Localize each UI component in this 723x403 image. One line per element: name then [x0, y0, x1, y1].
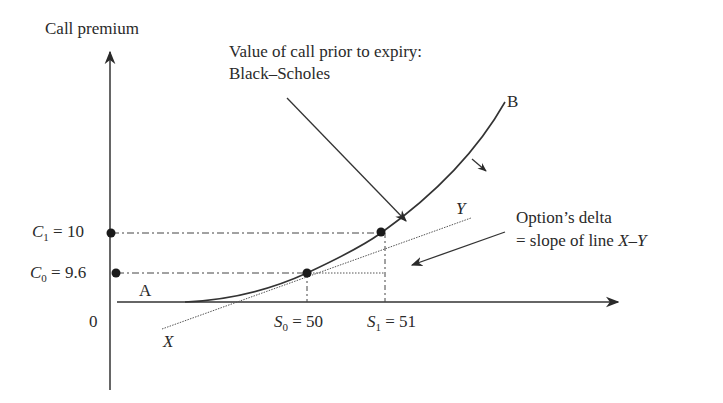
- c0-label: C0 = 9.6: [30, 263, 86, 283]
- c1-axis-dot: [107, 229, 116, 238]
- curve-shift-arrow: [472, 159, 486, 171]
- tangent-end-label-y: Y: [456, 199, 465, 219]
- annotation-delta-line1: Option’s delta: [516, 208, 612, 228]
- s1-label: S1 = 51: [367, 312, 416, 332]
- s0-label: S0 = 50: [274, 312, 323, 332]
- annotation-delta-line2: = slope of line X–Y: [516, 231, 646, 251]
- origin-label: 0: [89, 312, 98, 332]
- s1-point-dot: [377, 228, 386, 237]
- delta-pointer-arrow: [412, 232, 505, 265]
- curve-start-label-a: A: [139, 281, 151, 301]
- annotation-black-scholes-line1: Value of call prior to expiry:: [229, 42, 422, 62]
- annotation-black-scholes-line2: Black–Scholes: [229, 64, 330, 84]
- y-axis-label: Call premium: [45, 19, 139, 39]
- s0-point-dot: [303, 269, 312, 278]
- annotation-delta-prefix: = slope of line: [516, 231, 618, 250]
- c1-label: C1 = 10: [32, 222, 84, 242]
- black-scholes-pointer-arrow: [287, 98, 406, 221]
- annotation-delta-var: X–Y: [618, 231, 646, 250]
- c0-axis-dot: [112, 269, 121, 278]
- curve-end-label-b: B: [507, 92, 518, 112]
- tangent-start-label-x: X: [163, 332, 173, 352]
